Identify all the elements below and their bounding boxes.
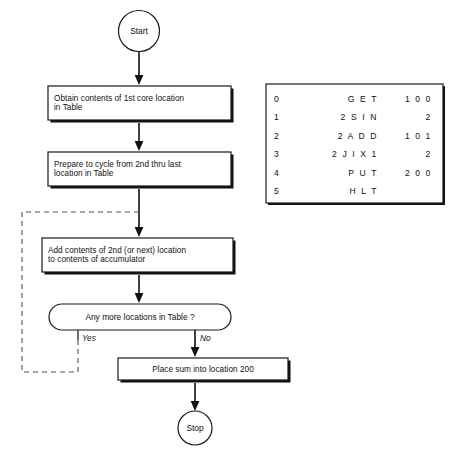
- obtain-box-text: Obtain contents of 1st core location in …: [54, 86, 229, 120]
- code-operation: 2 J I X 1: [308, 149, 378, 159]
- decision-label: Any more locations in Table ?: [85, 312, 194, 322]
- prepare-box-line-1: Prepare to cycle from 2nd thru last: [54, 160, 229, 169]
- arrowhead-decision-to-place: [191, 347, 200, 357]
- code-line-number: 2: [274, 131, 279, 141]
- arrowhead-add-to-decision: [135, 293, 144, 303]
- diagram-canvas: [0, 0, 453, 455]
- code-line-number: 0: [274, 94, 279, 104]
- place-box-text: Place sum into location 200: [118, 358, 288, 380]
- decision-text-wrap: Any more locations in Table ?: [49, 304, 231, 330]
- code-operand: 2 0 0: [388, 168, 432, 178]
- arrowhead-obtain-to-prepare: [135, 141, 144, 151]
- stop-terminal-label: Stop: [186, 423, 203, 433]
- code-operation: 2 A D D: [308, 131, 378, 141]
- feedback-loop-dashed-path: [22, 212, 139, 372]
- code-operand: 2: [388, 112, 432, 122]
- arrowhead-start-to-obtain: [135, 75, 144, 85]
- code-operand: 1 0 1: [388, 131, 432, 141]
- code-line-number: 4: [274, 168, 279, 178]
- branch-label-no: No: [200, 333, 211, 344]
- code-line-number: 5: [274, 186, 279, 196]
- prepare-box-text: Prepare to cycle from 2nd thru last loca…: [54, 152, 229, 186]
- code-operation: P U T: [308, 168, 378, 178]
- code-operand: 2: [388, 149, 432, 159]
- code-operation: 2 S I N: [308, 112, 378, 122]
- branch-label-yes: Yes: [82, 333, 96, 344]
- obtain-box-line-1: Obtain contents of 1st core location: [54, 94, 229, 103]
- code-line-number: 1: [274, 112, 279, 122]
- flowchart-page: Start Stop Obtain contents of 1st core l…: [0, 0, 453, 455]
- arrowhead-prepare-to-add: [135, 227, 144, 237]
- prepare-box-line-2: location in Table: [54, 169, 229, 178]
- place-box-line-1: Place sum into location 200: [152, 365, 253, 374]
- stop-terminal-label-wrap: Stop: [175, 418, 215, 438]
- obtain-box-line-2: in Table: [54, 103, 229, 112]
- code-operation: G E T: [308, 94, 378, 104]
- code-line-number: 3: [274, 149, 279, 159]
- add-box-text: Add contents of 2nd (or next) location t…: [48, 238, 232, 272]
- code-operation: H L T: [308, 186, 378, 196]
- add-box-line-2: to contents of accumulator: [48, 255, 232, 264]
- start-terminal-label: Start: [130, 26, 148, 36]
- start-terminal-label-wrap: Start: [119, 21, 159, 41]
- code-operand: 1 0 0: [388, 94, 432, 104]
- arrowhead-place-to-stop: [191, 401, 200, 411]
- add-box-line-1: Add contents of 2nd (or next) location: [48, 246, 232, 255]
